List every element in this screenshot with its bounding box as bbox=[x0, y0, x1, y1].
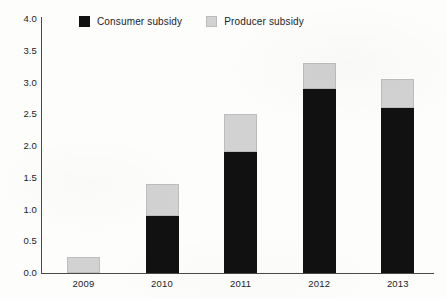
y-axis-tick-label: 0.0 bbox=[3, 268, 37, 278]
y-axis-tick-label: 2.5 bbox=[3, 109, 37, 119]
x-axis-line bbox=[41, 273, 434, 274]
bar-group[interactable] bbox=[67, 257, 100, 273]
y-axis-tick-label: 1.5 bbox=[3, 173, 37, 183]
y-axis-tick-labels: 4.03.53.02.52.01.51.00.50.0 bbox=[0, 0, 37, 299]
x-axis-tick-label: 2013 bbox=[368, 278, 428, 289]
legend-item[interactable]: Producer subsidy bbox=[206, 16, 304, 27]
legend-swatch-producer-icon bbox=[206, 16, 217, 27]
bar-segment-consumer-subsidy[interactable] bbox=[303, 89, 336, 273]
legend-swatch-consumer-icon bbox=[79, 16, 90, 27]
y-axis-tick-label: 2.0 bbox=[3, 141, 37, 151]
y-axis-tick-label: 0.5 bbox=[3, 236, 37, 246]
chart-legend: Consumer subsidyProducer subsidy bbox=[79, 16, 304, 27]
x-axis-tick-label: 2009 bbox=[53, 278, 113, 289]
x-axis-tick-label: 2011 bbox=[211, 278, 271, 289]
y-axis-tick-label: 3.5 bbox=[3, 46, 37, 56]
bar-segment-producer-subsidy[interactable] bbox=[303, 63, 336, 88]
bar-segment-consumer-subsidy[interactable] bbox=[146, 216, 179, 273]
bar-segment-consumer-subsidy[interactable] bbox=[224, 152, 257, 273]
plot-area bbox=[41, 19, 434, 273]
bar-group[interactable] bbox=[224, 114, 257, 273]
bar-group[interactable] bbox=[146, 184, 179, 273]
legend-label: Consumer subsidy bbox=[97, 16, 182, 27]
bar-segment-producer-subsidy[interactable] bbox=[381, 79, 414, 108]
bar-segment-producer-subsidy[interactable] bbox=[146, 184, 179, 216]
legend-label: Producer subsidy bbox=[224, 16, 304, 27]
bar-segment-consumer-subsidy[interactable] bbox=[381, 108, 414, 273]
bar-segment-producer-subsidy[interactable] bbox=[67, 257, 100, 273]
bar-group[interactable] bbox=[381, 79, 414, 273]
y-axis-tick-label: 3.0 bbox=[3, 78, 37, 88]
y-axis-tick-label: 4.0 bbox=[3, 14, 37, 24]
legend-item[interactable]: Consumer subsidy bbox=[79, 16, 182, 27]
x-axis-tick-label: 2012 bbox=[289, 278, 349, 289]
chart-container: 4.03.53.02.52.01.51.00.50.0 200920102011… bbox=[0, 0, 447, 299]
bar-group[interactable] bbox=[303, 63, 336, 273]
bar-segment-producer-subsidy[interactable] bbox=[224, 114, 257, 152]
x-axis-tick-label: 2010 bbox=[132, 278, 192, 289]
y-axis-tick-label: 1.0 bbox=[3, 205, 37, 215]
